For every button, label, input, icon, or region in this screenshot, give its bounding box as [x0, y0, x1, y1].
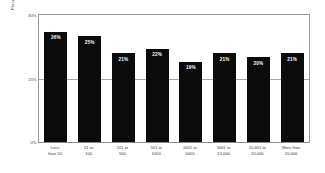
bar[interactable]: 20%	[247, 57, 270, 142]
x-tick-label: 501 to 1000	[139, 145, 173, 156]
bar-value-label: 19%	[179, 65, 202, 70]
y-tick-label: 30%	[28, 13, 36, 18]
x-tick-label: 1001 to 5000	[173, 145, 207, 156]
y-axis-title: Percent of project FTE dedicated to CM	[8, 0, 18, 28]
x-tick-label: 5001 to 10,000	[207, 145, 241, 156]
bar-value-label: 21%	[213, 57, 236, 62]
bars-layer: 26%25%21%22%19%21%20%21%	[39, 15, 309, 142]
bar-slot: 22%	[146, 15, 169, 142]
bar-slot: 20%	[247, 15, 270, 142]
bar-chart: Percent of project FTE dedicated to CM 0…	[0, 0, 325, 173]
y-tick-label: 0%	[30, 140, 36, 145]
bar[interactable]: 19%	[179, 62, 202, 142]
y-tick-label: 15%	[28, 76, 36, 81]
plot-area: 0%15%30% 26%25%21%22%19%21%20%21%	[38, 14, 310, 143]
bar-value-label: 20%	[247, 61, 270, 66]
bar[interactable]: 26%	[44, 32, 67, 142]
bar-slot: 25%	[78, 15, 101, 142]
bar[interactable]: 25%	[78, 36, 101, 142]
bar-slot: 21%	[112, 15, 135, 142]
bar-slot: 21%	[213, 15, 236, 142]
x-tick-label: More than 20,000	[274, 145, 308, 156]
bar[interactable]: 22%	[146, 49, 169, 142]
bar-value-label: 22%	[146, 52, 169, 57]
bar[interactable]: 21%	[281, 53, 304, 142]
x-tick-label: 101 to 500	[106, 145, 140, 156]
bar-value-label: 21%	[281, 57, 304, 62]
x-tick-label: 10,001 to 20,000	[241, 145, 275, 156]
bar-slot: 21%	[281, 15, 304, 142]
bar-value-label: 21%	[112, 57, 135, 62]
bar-value-label: 25%	[78, 40, 101, 45]
bar[interactable]: 21%	[112, 53, 135, 142]
bar-slot: 26%	[44, 15, 67, 142]
bar[interactable]: 21%	[213, 53, 236, 142]
bar-value-label: 26%	[44, 35, 67, 40]
x-axis-labels: Less than 5051 to 100101 to 500501 to 10…	[38, 145, 310, 167]
x-tick-label: Less than 50	[38, 145, 72, 156]
bar-slot: 19%	[179, 15, 202, 142]
x-tick-label: 51 to 100	[72, 145, 106, 156]
